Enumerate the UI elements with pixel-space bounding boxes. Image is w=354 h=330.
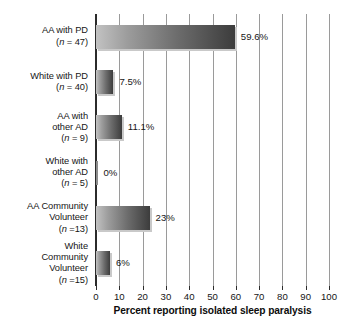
bar	[96, 251, 110, 275]
x-axis-tick	[329, 286, 330, 290]
category-label-line: White	[0, 241, 88, 252]
category-label-line: Volunteer	[0, 263, 88, 274]
gridline	[119, 14, 120, 286]
category-label: White withother AD(n = 5)	[0, 156, 88, 190]
category-label: WhiteCommunityVolunteer(n =15)	[0, 241, 88, 286]
gridline	[189, 14, 190, 286]
bar-value-label: 7.5%	[119, 76, 141, 87]
category-label-line: White with	[0, 156, 88, 167]
category-label-line: AA with	[0, 111, 88, 122]
category-label: AA CommunityVolunteer(n =13)	[0, 201, 88, 235]
bar-value-label: 59.6%	[241, 31, 268, 42]
sample-size-label: (n = 40)	[0, 82, 88, 93]
sample-size-label: (n = 9)	[0, 133, 88, 144]
bar	[96, 70, 113, 94]
plot-area: 010203040506070809010059.6%7.5%11.1%0%23…	[96, 14, 329, 286]
y-axis-line	[95, 14, 97, 286]
x-axis-tick	[306, 286, 307, 290]
x-axis-tick	[236, 286, 237, 290]
x-axis-tick	[119, 286, 120, 290]
bar-chart-figure: AA with PD(n = 47)White with PD(n = 40)A…	[0, 0, 354, 330]
gridline	[282, 14, 283, 286]
x-axis-tick-label: 100	[314, 291, 344, 302]
x-axis-tick	[166, 286, 167, 290]
x-axis-title: Percent reporting isolated sleep paralys…	[96, 305, 329, 316]
bar	[96, 115, 122, 139]
gridline	[236, 14, 237, 286]
gridline	[143, 14, 144, 286]
x-axis-tick	[189, 286, 190, 290]
category-label: AA withother AD(n = 9)	[0, 111, 88, 145]
gridline	[259, 14, 260, 286]
bar-value-label: 6%	[116, 257, 130, 268]
x-axis-tick	[143, 286, 144, 290]
gridline	[166, 14, 167, 286]
x-axis-tick	[259, 286, 260, 290]
category-label-line: White with PD	[0, 71, 88, 82]
bar	[96, 25, 235, 49]
x-axis-tick	[282, 286, 283, 290]
sample-size-label: (n =13)	[0, 224, 88, 235]
sample-size-label: (n =15)	[0, 275, 88, 286]
category-label-line: Community	[0, 252, 88, 263]
category-label-line: AA with PD	[0, 25, 88, 36]
bar	[96, 161, 98, 185]
category-label-line: other AD	[0, 167, 88, 178]
bar-value-label: 0%	[104, 167, 118, 178]
sample-size-label: (n = 47)	[0, 37, 88, 48]
category-label-line: other AD	[0, 122, 88, 133]
bar	[96, 206, 150, 230]
category-label-line: AA Community	[0, 201, 88, 212]
gridline	[306, 14, 307, 286]
category-label: White with PD(n = 40)	[0, 71, 88, 93]
category-axis-labels: AA with PD(n = 47)White with PD(n = 40)A…	[0, 14, 92, 286]
bar-value-label: 23%	[156, 212, 175, 223]
category-label: AA with PD(n = 47)	[0, 25, 88, 47]
bar-value-label: 11.1%	[128, 121, 155, 132]
gridline	[329, 14, 330, 286]
x-axis-tick	[96, 286, 97, 290]
sample-size-label: (n = 5)	[0, 178, 88, 189]
x-axis-tick	[213, 286, 214, 290]
gridline	[213, 14, 214, 286]
category-label-line: Volunteer	[0, 212, 88, 223]
